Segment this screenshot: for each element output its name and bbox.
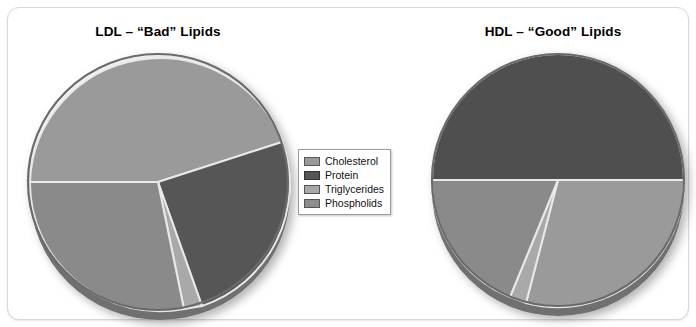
legend-swatch-protein bbox=[304, 171, 320, 180]
figure-panel: LDL – “Bad” Lipids HDL – “Good” Lipids bbox=[7, 7, 689, 320]
legend-item-phospholids: Phospholids bbox=[304, 196, 384, 210]
pie-chart-hdl bbox=[428, 50, 688, 312]
hdl-slice-protein bbox=[432, 54, 684, 180]
legend-label-triglycerides: Triglycerides bbox=[325, 183, 384, 196]
pie-chart-ldl bbox=[26, 50, 294, 318]
legend-label-cholesterol: Cholesterol bbox=[325, 155, 378, 168]
chart-title-ldl: LDL – “Bad” Lipids bbox=[18, 24, 298, 39]
legend-item-triglycerides: Triglycerides bbox=[304, 182, 384, 196]
legend-swatch-triglycerides bbox=[304, 185, 320, 194]
legend-label-phospholids: Phospholids bbox=[325, 197, 382, 210]
legend-label-protein: Protein bbox=[325, 169, 358, 182]
figure-canvas: LDL – “Bad” Lipids HDL – “Good” Lipids bbox=[0, 0, 696, 327]
chart-legend: Cholesterol Protein Triglycerides Phosph… bbox=[298, 149, 391, 215]
ldl-slice-phospholids bbox=[30, 182, 184, 311]
legend-swatch-cholesterol bbox=[304, 157, 320, 166]
legend-item-protein: Protein bbox=[304, 168, 384, 182]
legend-item-cholesterol: Cholesterol bbox=[304, 154, 384, 168]
legend-swatch-phospholids bbox=[304, 199, 320, 208]
chart-title-hdl: HDL – “Good” Lipids bbox=[413, 24, 693, 39]
